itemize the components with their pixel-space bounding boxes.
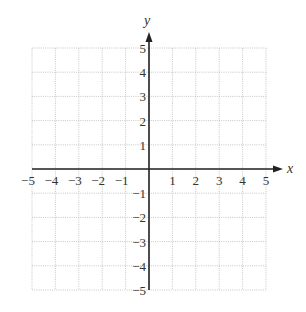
x-tick-label: −2: [91, 173, 105, 188]
y-axis-label: y: [142, 13, 151, 28]
x-tick-label: 4: [239, 173, 246, 188]
x-tick-label: 3: [216, 173, 223, 188]
y-axis-arrow-icon: [146, 32, 153, 42]
y-tick-label: −5: [132, 283, 146, 298]
y-tick-label: 5: [140, 41, 147, 56]
x-tick-label: 5: [263, 173, 270, 188]
y-tick-label: −1: [132, 186, 146, 201]
x-tick-label: −1: [115, 173, 129, 188]
x-tick-label: 1: [169, 173, 176, 188]
y-tick-label: −2: [132, 210, 146, 225]
x-tick-label: 2: [193, 173, 200, 188]
x-tick-label: −3: [68, 173, 82, 188]
coordinate-plane: x y −5−4−3−2−112345 54321−1−2−3−4−5: [0, 0, 306, 312]
x-axis-label: x: [286, 161, 294, 176]
y-tick-label: 2: [140, 114, 147, 129]
y-tick-label: −3: [132, 235, 146, 250]
x-tick-label: −5: [21, 173, 35, 188]
y-tick-label: 1: [140, 138, 147, 153]
x-tick-label: −4: [44, 173, 58, 188]
y-tick-label: −4: [132, 259, 146, 274]
y-tick-label: 3: [140, 89, 147, 104]
x-axis-arrow-icon: [273, 166, 283, 173]
y-tick-label: 4: [140, 65, 147, 80]
